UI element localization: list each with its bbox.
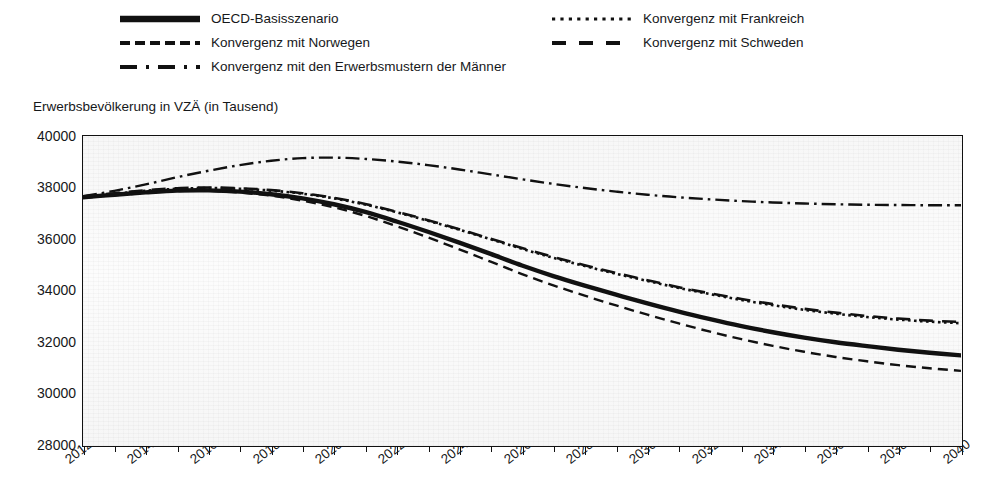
- series-line-3: [83, 188, 961, 323]
- y-tick-label: 34000: [10, 282, 76, 298]
- legend-item[interactable]: Konvergenz mit Schweden: [550, 32, 804, 54]
- series-line-2: [83, 158, 961, 206]
- y-tick-label: 30000: [10, 385, 76, 401]
- x-tick-mark-minor: [366, 447, 367, 452]
- legend-line-sample-icon: [118, 12, 202, 26]
- x-tick-mark-minor: [303, 447, 304, 452]
- legend-line-sample-icon: [118, 36, 202, 50]
- legend-item-label: Konvergenz mit Schweden: [643, 36, 804, 50]
- legend-item-label: OECD-Basisszenario: [211, 12, 339, 26]
- x-tick-mark-minor: [805, 447, 806, 452]
- legend-item[interactable]: Konvergenz mit Norwegen: [118, 32, 370, 54]
- legend-item-label: Konvergenz mit Frankreich: [643, 12, 804, 26]
- x-tick-mark-minor: [679, 447, 680, 452]
- legend-line-sample-icon: [550, 12, 634, 26]
- x-tick-mark-minor: [617, 447, 618, 452]
- series-line-4: [83, 188, 961, 322]
- legend-line-sample-icon: [118, 60, 202, 74]
- y-tick-label: 36000: [10, 231, 76, 247]
- x-tick-mark-minor: [178, 447, 179, 452]
- legend-item[interactable]: Konvergenz mit Frankreich: [550, 8, 804, 30]
- y-tick-label: 40000: [10, 128, 76, 144]
- legend-item-label: Konvergenz mit den Erwerbsmustern der Mä…: [211, 60, 506, 74]
- x-tick-mark-minor: [115, 447, 116, 452]
- y-tick-label: 32000: [10, 334, 76, 350]
- chart-legend: OECD-BasisszenarioKonvergenz mit Norwege…: [118, 8, 948, 80]
- series-layer: [83, 136, 961, 445]
- x-tick-mark-minor: [429, 447, 430, 452]
- plot-area: [82, 135, 963, 447]
- series-line-1: [83, 191, 961, 371]
- x-tick-mark-minor: [491, 447, 492, 452]
- legend-item[interactable]: Konvergenz mit den Erwerbsmustern der Mä…: [118, 56, 506, 78]
- x-tick-mark-minor: [240, 447, 241, 452]
- legend-item-label: Konvergenz mit Norwegen: [211, 36, 370, 50]
- legend-line-sample-icon: [550, 36, 634, 50]
- x-tick-mark-minor: [554, 447, 555, 452]
- x-tick-mark-minor: [868, 447, 869, 452]
- x-tick-mark-minor: [930, 447, 931, 452]
- x-tick-mark-minor: [742, 447, 743, 452]
- y-tick-label: 38000: [10, 179, 76, 195]
- legend-item[interactable]: OECD-Basisszenario: [118, 8, 339, 30]
- y-axis-title: Erwerbsbevölkerung in VZÄ (in Tausend): [33, 99, 278, 114]
